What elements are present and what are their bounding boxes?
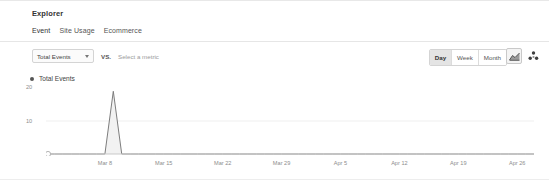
tab-ecommerce[interactable]: Ecommerce bbox=[104, 27, 142, 34]
x-axis-tick-label: Mar 22 bbox=[214, 160, 231, 166]
vs-label: VS. bbox=[101, 53, 111, 60]
events-line-chart: 20 10 bbox=[0, 84, 549, 164]
legend-series-label: Total Events bbox=[39, 75, 75, 82]
compare-metric-select[interactable]: Select a metric bbox=[118, 53, 159, 60]
panel-bottom-divider bbox=[0, 179, 549, 180]
chart-type-buttons bbox=[506, 48, 541, 64]
x-axis-tick-label: Mar 29 bbox=[273, 160, 290, 166]
chart-controls: Total Events VS. Select a metric Day Wee… bbox=[0, 42, 549, 72]
x-axis-tick-label: Apr 26 bbox=[509, 160, 525, 166]
x-axis-tick-label: Apr 19 bbox=[450, 160, 466, 166]
report-tabs: Event Site Usage Ecommerce bbox=[0, 22, 549, 42]
chart-svg bbox=[46, 86, 534, 156]
tab-site-usage[interactable]: Site Usage bbox=[59, 27, 94, 34]
area-chart-icon[interactable] bbox=[506, 48, 522, 64]
x-axis-tick-label: Mar 8 bbox=[98, 160, 112, 166]
granularity-week-button[interactable]: Week bbox=[452, 50, 479, 65]
explorer-report-panel: Explorer Event Site Usage Ecommerce Tota… bbox=[0, 0, 549, 180]
panel-header: Explorer bbox=[0, 0, 549, 22]
granularity-month-button[interactable]: Month bbox=[479, 50, 506, 65]
granularity-toggle-group: Day Week Month bbox=[429, 49, 507, 66]
metric-select[interactable]: Total Events bbox=[32, 49, 94, 63]
chevron-down-icon bbox=[85, 55, 89, 58]
tab-event[interactable]: Event bbox=[32, 27, 50, 34]
series-area-fill bbox=[46, 91, 534, 154]
legend-color-dot bbox=[30, 77, 34, 81]
chart-legend: Total Events bbox=[30, 75, 75, 82]
page-title: Explorer bbox=[32, 9, 63, 18]
y-axis-tick-top: 20 bbox=[26, 84, 32, 90]
x-axis-tick-label: Apr 5 bbox=[334, 160, 347, 166]
x-axis-labels: Mar 8Mar 15Mar 22Mar 29Apr 5Apr 12Apr 19… bbox=[0, 160, 549, 172]
granularity-day-button[interactable]: Day bbox=[430, 50, 452, 65]
metric-select-label: Total Events bbox=[37, 53, 71, 60]
scatter-chart-icon[interactable] bbox=[526, 48, 541, 64]
data-point-marker[interactable] bbox=[46, 151, 51, 156]
y-axis-tick-mid: 10 bbox=[26, 118, 32, 124]
x-axis-tick-label: Apr 12 bbox=[391, 160, 407, 166]
x-axis-tick-label: Mar 15 bbox=[155, 160, 172, 166]
chart-plot-area bbox=[46, 86, 534, 156]
